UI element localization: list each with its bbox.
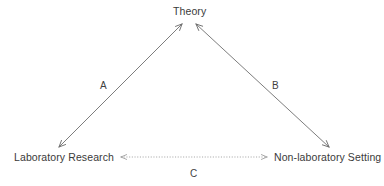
node-non-laboratory-setting-label: Non-laboratory Setting <box>274 152 381 163</box>
edge-a-line <box>59 24 182 147</box>
edge-c-label: C <box>190 169 197 179</box>
node-laboratory-research-label: Laboratory Research <box>14 152 114 163</box>
diagram-canvas: Theory Laboratory Research Non-laborator… <box>0 0 384 186</box>
edge-b-line <box>196 24 329 147</box>
edge-a-label: A <box>100 81 107 91</box>
node-theory-label: Theory <box>173 6 206 17</box>
edge-b-label: B <box>272 81 279 91</box>
